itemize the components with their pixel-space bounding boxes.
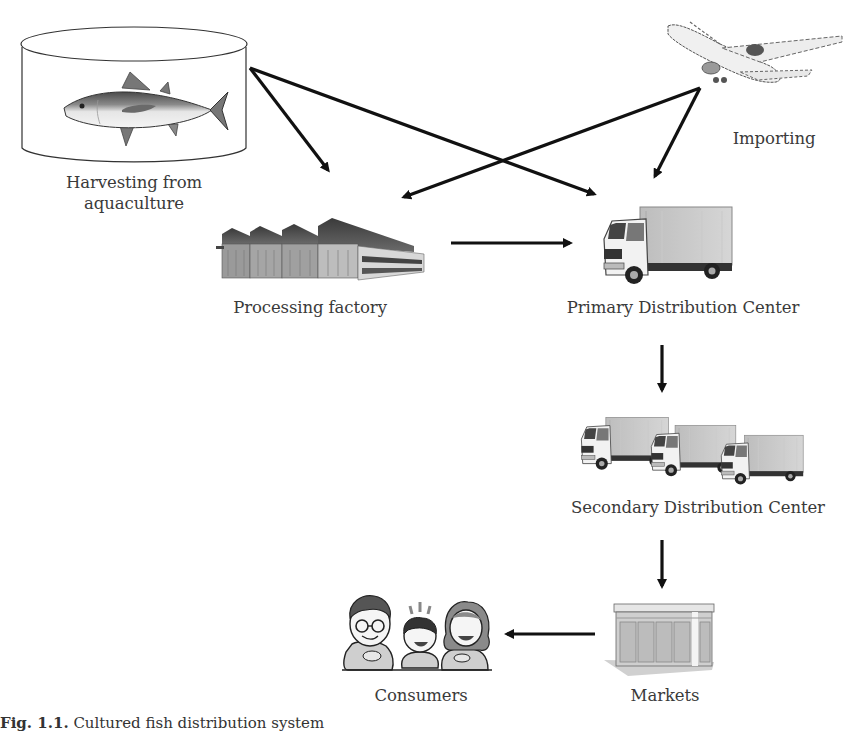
flow-arrows — [250, 68, 700, 634]
fish-tank-icon — [21, 27, 247, 162]
arrow-harvesting-to-primary — [250, 68, 594, 194]
label-markets: Markets — [610, 685, 720, 706]
figure-caption-text: Cultured fish distribution system — [73, 714, 324, 732]
label-processing: Processing factory — [210, 297, 410, 318]
fish-icon — [64, 72, 228, 146]
label-consumers: Consumers — [366, 685, 476, 706]
label-importing: Importing — [714, 128, 834, 149]
store-icon — [604, 604, 714, 676]
factory-icon — [216, 218, 424, 280]
figure-number: Fig. 1.1. — [0, 714, 69, 732]
arrow-importing-to-processing — [404, 88, 700, 197]
label-primary: Primary Distribution Center — [548, 297, 818, 318]
label-harvesting-line1: Harvesting from — [20, 172, 248, 193]
trucks-icon — [581, 417, 803, 484]
label-harvesting-line2: aquaculture — [20, 193, 248, 214]
figure-caption: Fig. 1.1. Cultured fish distribution sys… — [0, 714, 324, 732]
truck-icon — [604, 207, 732, 284]
airplane-icon — [668, 22, 842, 83]
label-secondary: Secondary Distribution Center — [548, 497, 848, 518]
family-icon — [342, 596, 492, 670]
label-harvesting: Harvesting from aquaculture — [20, 172, 248, 214]
